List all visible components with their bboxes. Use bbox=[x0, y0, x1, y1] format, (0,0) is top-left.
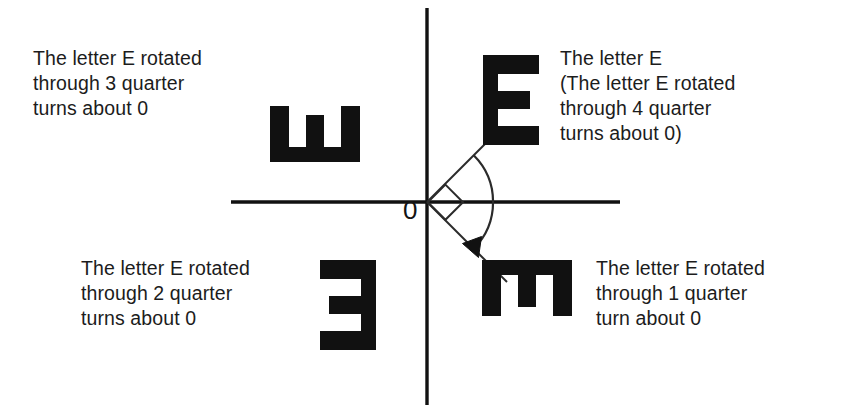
letter-e-top-left bbox=[270, 106, 360, 162]
caption-bottom-right: The letter E rotated through 1 quarter t… bbox=[596, 256, 841, 331]
e-top-arm bbox=[553, 260, 572, 316]
e-middle-arm bbox=[483, 91, 530, 109]
e-middle-arm bbox=[518, 260, 536, 307]
caption-bottom-left: The letter E rotated through 2 quarter t… bbox=[81, 256, 326, 331]
caption-top-right: The letter E (The letter E rotated throu… bbox=[560, 46, 825, 146]
e-bottom-arm bbox=[320, 260, 376, 279]
letter-e-bottom-left bbox=[320, 260, 376, 350]
e-middle-arm bbox=[329, 296, 376, 314]
rotation-figure: 0 The letter E rotated through 3 quarter… bbox=[0, 0, 841, 413]
e-top-arm bbox=[320, 331, 376, 350]
letter-e-bottom-right bbox=[482, 260, 572, 316]
origin-label: 0 bbox=[403, 196, 417, 224]
e-top-arm bbox=[483, 55, 539, 74]
letter-e-top-right bbox=[483, 55, 539, 145]
e-bottom-arm bbox=[483, 126, 539, 145]
e-bottom-arm bbox=[482, 260, 501, 316]
e-middle-arm bbox=[306, 115, 324, 162]
e-bottom-arm bbox=[341, 106, 360, 162]
caption-top-left: The letter E rotated through 3 quarter t… bbox=[33, 46, 278, 121]
